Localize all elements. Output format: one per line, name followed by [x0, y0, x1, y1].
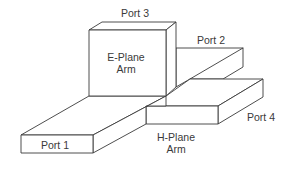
- port4-label: Port 4: [247, 111, 275, 123]
- magic-tee-diagram: Port 3 Port 2 Port 4 Port 1 E-Plane Arm …: [0, 0, 287, 169]
- h-plane-label-line2: Arm: [151, 143, 201, 155]
- h-plane-label-line1: H-Plane: [151, 131, 201, 143]
- e-plane-label-line1: E-Plane: [101, 51, 151, 63]
- e-plane-arm-label: E-Plane Arm: [101, 51, 151, 75]
- e-plane-label-line2: Arm: [101, 63, 151, 75]
- h-plane-arm-label: H-Plane Arm: [151, 131, 201, 155]
- port3-label: Port 3: [121, 7, 149, 19]
- port2-label: Port 2: [197, 34, 225, 46]
- port1-label: Port 1: [41, 139, 69, 151]
